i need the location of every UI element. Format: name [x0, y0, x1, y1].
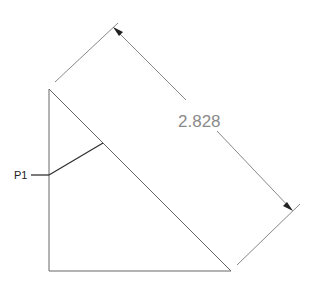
leader-line [49, 143, 103, 175]
dimension-value: 2.828 [178, 112, 221, 131]
arrowhead-bottom-icon [283, 202, 293, 211]
point-label-p1: P1 [14, 169, 27, 181]
arrowhead-top-icon [113, 27, 123, 36]
extension-line-top [55, 23, 118, 82]
dimension-line-upper [114, 28, 186, 100]
dimension-line-lower [217, 131, 292, 210]
extension-lines [55, 23, 300, 265]
cad-drawing: 2.828 P1 [0, 0, 315, 284]
extension-line-bottom [237, 204, 300, 265]
p1-leader [31, 143, 103, 175]
drawing-canvas: 2.828 P1 [0, 0, 315, 284]
